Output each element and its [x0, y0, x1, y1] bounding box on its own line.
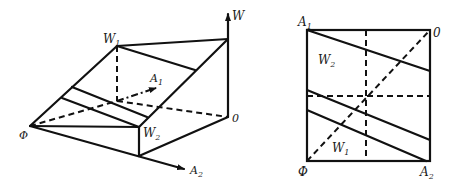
stripe-upper — [72, 87, 147, 117]
label-w2: W2 — [143, 126, 160, 142]
left-3d-figure: W W1 W2 A1 A2 0 Φ — [19, 9, 246, 179]
label-a1: A1 — [149, 72, 163, 87]
top-edge — [117, 39, 228, 46]
label-a2: A2 — [419, 165, 434, 181]
stripe-middle — [307, 90, 430, 140]
label-origin: 0 — [433, 26, 441, 40]
hidden-base-line — [117, 101, 228, 117]
label-phi: Φ — [19, 129, 28, 142]
label-origin: 0 — [232, 112, 239, 125]
label-phi: Φ — [298, 165, 308, 179]
label-w1: W1 — [103, 32, 120, 48]
stripe-w1 — [117, 46, 195, 70]
front-bottom-edge — [30, 126, 139, 127]
label-a1: A1 — [297, 15, 312, 31]
right-2d-figure: A1 0 Φ A2 W2 W1 — [297, 15, 441, 181]
label-w1: W1 — [332, 141, 349, 157]
label-w: W — [232, 9, 246, 23]
diagram-canvas: W W1 W2 A1 A2 0 Φ A1 0 Φ A2 W2 W1 — [0, 0, 453, 187]
label-w2: W2 — [318, 53, 335, 69]
a1-axis-arrow — [117, 88, 156, 101]
label-a2: A2 — [189, 164, 203, 179]
